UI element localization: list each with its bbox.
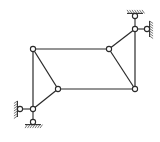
member-DF [109,49,135,89]
support-pin-SA-left [17,106,22,111]
joint-F [132,86,137,91]
joint-C [55,86,60,91]
member-AC [33,89,58,109]
truss-members [33,29,135,109]
joint-A [30,106,35,111]
support-pin-SE-top [132,13,137,18]
support-pin-SE-right [144,26,149,31]
joint-E [132,26,137,31]
member-BC [33,49,58,89]
joint-D [106,46,111,51]
truss-diagram [0,0,160,142]
member-DE [109,29,135,49]
support-pin-SA-bottom [30,119,35,124]
joint-B [30,46,35,51]
